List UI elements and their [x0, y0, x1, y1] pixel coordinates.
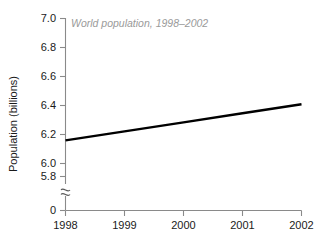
- x-tick-label-2000: 2000: [171, 219, 195, 231]
- y-tick-label-6-8: 6.8: [41, 41, 56, 53]
- x-tick-label-2002: 2002: [289, 219, 313, 231]
- x-tick-label-1999: 1999: [112, 219, 136, 231]
- x-tick-label-1998: 1998: [53, 219, 77, 231]
- y-tick-label-6-4: 6.4: [41, 99, 56, 111]
- data-series-world-population: [66, 104, 302, 140]
- x-tick-label-2001: 2001: [230, 219, 254, 231]
- y-axis-ticks: [60, 19, 66, 211]
- y-tick-label-5-8: 5.8: [41, 170, 56, 182]
- y-tick-label-6-6: 6.6: [41, 70, 56, 82]
- y-tick-label-7-0: 7.0: [41, 12, 56, 24]
- y-tick-label-6-0: 6.0: [41, 157, 56, 169]
- line-chart: 7.0 6.8 6.6 6.4 6.2 6.0 5.8 0 1998 1999 …: [0, 0, 329, 242]
- chart-container: 7.0 6.8 6.6 6.4 6.2 6.0 5.8 0 1998 1999 …: [0, 0, 329, 242]
- axis-break-icon: [61, 189, 70, 196]
- y-tick-label-zero: 0: [50, 204, 56, 216]
- y-tick-label-6-2: 6.2: [41, 128, 56, 140]
- x-axis-ticks: [66, 211, 302, 217]
- chart-title: World population, 1998–2002: [71, 17, 208, 29]
- y-axis-title: Population (billions): [7, 76, 19, 172]
